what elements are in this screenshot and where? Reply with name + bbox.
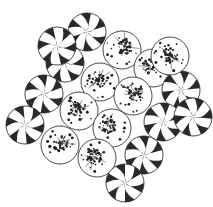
circle-pinwheel-18 [38,27,76,65]
circle-speckled-13 [41,126,79,164]
circle-speckled-7 [114,77,152,115]
circle-speckled-9 [60,92,98,130]
figure-root: — — —— —— — — — — —— — — [0,0,213,207]
circle-pinwheel-16 [106,164,144,202]
circle-speckled-19 [151,37,189,75]
circle-packing-plate [0,0,213,207]
circle-pinwheel-17 [174,98,212,136]
circle-pinwheel-10 [6,106,44,144]
circle-packing-svg [0,0,213,207]
